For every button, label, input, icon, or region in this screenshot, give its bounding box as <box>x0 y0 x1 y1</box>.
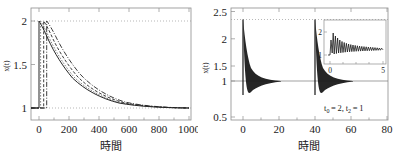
annot-t2-value: 1 <box>359 103 363 113</box>
left-ytick-label-1: 1 <box>22 102 28 114</box>
left-yaxis-title: x(t) <box>2 60 11 71</box>
right-xtick-label-20: 20 <box>274 123 286 135</box>
left-plot-frame <box>31 8 191 120</box>
right-yaxis-title: x(t) <box>201 62 210 73</box>
two-panel-figure: 2 1.5 1 0 200 400 600 800 1000 時間 x(t) <box>0 0 395 156</box>
left-xtick-label-1000: 1000 <box>178 123 198 135</box>
inset-xtick-label-5: 5 <box>381 66 385 75</box>
left-xtick-label-800: 800 <box>151 123 168 135</box>
inset-ytick-label-2: 2 <box>318 28 322 37</box>
left-xaxis-title: 時間 <box>100 140 122 152</box>
inset-xtick-label-0: 0 <box>328 66 332 75</box>
inset-ytick-label-1: 1 <box>318 51 322 60</box>
right-xtick-label-60: 60 <box>346 123 358 135</box>
left-ytick-label-1_5: 1.5 <box>13 59 27 71</box>
left-plot-panel: 2 1.5 1 0 200 400 600 800 1000 時間 x(t) <box>0 0 198 156</box>
right-xtick-label-80: 80 <box>382 123 394 135</box>
left-xtick-label-600: 600 <box>121 123 138 135</box>
right-plot-panel: 2.5 2 1.5 1 0.5 0 20 40 60 80 時間 x(t) t0… <box>197 0 395 156</box>
right-parameter-annotation: t0 = 2, t2 = 1 <box>324 103 363 114</box>
right-xaxis-title: 時間 <box>298 140 320 152</box>
left-xtick-label-200: 200 <box>61 123 78 135</box>
right-xtick-label-40: 40 <box>310 123 322 135</box>
left-xtick-label-400: 400 <box>91 123 108 135</box>
right-xtick-label-0: 0 <box>240 123 246 135</box>
right-ytick-label-0_5: 0.5 <box>213 111 227 123</box>
svg-text:t0 = 2, t2 = 1: t0 = 2, t2 = 1 <box>324 103 363 114</box>
right-plot-svg: 2.5 2 1.5 1 0.5 0 20 40 60 80 時間 x(t) t0… <box>197 0 395 156</box>
left-ytick-label-2: 2 <box>22 15 28 27</box>
left-plot-svg: 2 1.5 1 0 200 400 600 800 1000 時間 x(t) <box>0 0 198 156</box>
left-xtick-label-0: 0 <box>36 123 42 135</box>
right-ytick-label-1_5: 1.5 <box>213 60 227 72</box>
right-ytick-label-2: 2 <box>222 33 228 45</box>
right-ytick-label-2_5: 2.5 <box>213 6 227 18</box>
right-ytick-label-1: 1 <box>222 75 228 87</box>
